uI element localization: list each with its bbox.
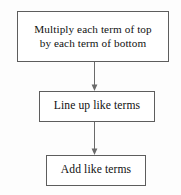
flowchart-node-add-like-terms: Add like terms xyxy=(46,155,146,186)
flowchart-node-multiply: Multiply each term of top by each term o… xyxy=(17,11,169,62)
flowchart-diagram: Multiply each term of top by each term o… xyxy=(0,0,181,195)
flowchart-node-line-up-like-terms-label: Line up like terms xyxy=(51,99,143,113)
flowchart-node-multiply-label: Multiply each term of top by each term o… xyxy=(31,23,154,50)
flowchart-node-add-like-terms-label: Add like terms xyxy=(58,163,134,177)
flowchart-node-line-up-like-terms: Line up like terms xyxy=(39,91,155,122)
connector-lineup-to-add xyxy=(92,122,98,155)
connector-multiply-to-lineup xyxy=(92,62,98,91)
